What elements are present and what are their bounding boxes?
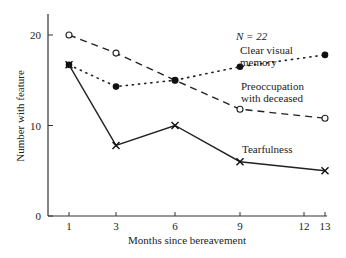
legend-clear-visual-2: memory [240,56,277,68]
x-tick-label: 1 [66,220,72,232]
filled-circle-marker [322,52,329,59]
line-chart: 1369121301020 N = 22 Clear visual memory… [0,0,346,258]
y-tick-label: 20 [30,29,42,41]
x-marker [172,122,179,129]
x-tick-label: 13 [320,220,332,232]
x-tick-label: 3 [113,220,119,232]
y-axis-label: Number with feature [14,70,26,162]
open-circle-marker [237,106,243,112]
y-tick-label: 10 [30,120,42,132]
filled-circle-marker [113,83,120,90]
x-marker [113,142,120,149]
x-tick-label: 6 [172,220,178,232]
ticks: 1369121301020 [30,29,331,232]
legend-preoccupation-1: Preoccupation [241,80,304,92]
open-circle-marker [322,115,328,121]
filled-circle-marker [172,77,179,84]
x-axis-label: Months since bereavement [128,234,246,246]
legend-preoccupation-2: with deceased [241,92,303,104]
x-tick-label: 9 [237,220,243,232]
legend-tearfulness: Tearfulness [242,143,293,155]
open-circle-marker [66,32,72,38]
open-circle-marker [113,50,119,56]
legend-clear-visual-1: Clear visual [240,44,293,56]
y-tick-label: 0 [36,210,42,222]
x-tick-label: 12 [299,220,310,232]
annotation-n: N = 22 [235,30,268,42]
